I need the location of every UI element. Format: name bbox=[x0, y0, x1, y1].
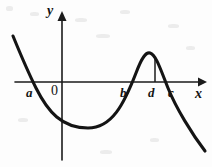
graph-canvas bbox=[0, 0, 212, 167]
y-axis-label: y bbox=[47, 4, 53, 18]
point-label-b: b bbox=[120, 86, 127, 99]
point-label-a: a bbox=[26, 86, 33, 99]
point-label-d: d bbox=[148, 86, 155, 99]
point-label-c: c bbox=[168, 86, 174, 99]
cubic-curve bbox=[13, 36, 205, 151]
y-axis-arrowhead bbox=[58, 11, 67, 21]
math-figure: y x 0 a b d c bbox=[0, 0, 212, 167]
x-axis-label: x bbox=[195, 87, 202, 101]
origin-label: 0 bbox=[51, 84, 58, 98]
